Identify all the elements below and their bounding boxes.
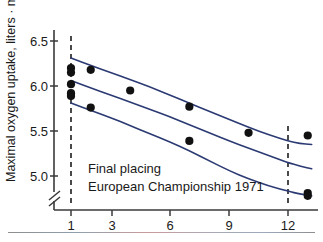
x-tick-label-9: 9	[225, 218, 232, 233]
x-tick-label-12: 12	[281, 218, 295, 233]
y-tick-label-5-5: 5.5	[30, 124, 48, 139]
y-tick-label-6-5: 6.5	[30, 34, 48, 49]
figure-container: Maximal oxygen uptake, liters · min-1 6.…	[0, 0, 323, 242]
footer-divider	[8, 232, 315, 233]
y-axis-title: Maximal oxygen uptake, liters · min-1	[3, 0, 18, 182]
y-axis-title-text: Maximal oxygen uptake, liters	[4, 17, 18, 182]
y-tick-label-6-0: 6.0	[30, 79, 48, 94]
data-point	[126, 86, 134, 94]
data-point	[67, 92, 75, 100]
data-point	[304, 192, 312, 200]
scatter-plot-canvas: Maximal oxygen uptake, liters · min-1 6.…	[0, 0, 323, 242]
regression-curve	[71, 81, 312, 169]
data-point	[87, 66, 95, 74]
y-tick-label-5-0: 5.0	[30, 169, 48, 184]
regression-curve	[71, 58, 312, 144]
x-tick-label-6: 6	[166, 218, 173, 233]
data-point	[185, 103, 193, 111]
data-point	[67, 80, 75, 88]
data-point	[185, 137, 193, 145]
data-point	[244, 129, 252, 137]
annotation-line-1: Final placing	[88, 161, 161, 176]
x-tick-label-1: 1	[67, 218, 74, 233]
data-point	[67, 68, 75, 76]
data-point	[87, 104, 95, 112]
y-axis-title-unit: min	[4, 0, 18, 6]
annotation-line-2: European Championship 1971	[88, 179, 264, 194]
x-tick-label-3: 3	[108, 218, 115, 233]
data-point	[304, 131, 312, 139]
